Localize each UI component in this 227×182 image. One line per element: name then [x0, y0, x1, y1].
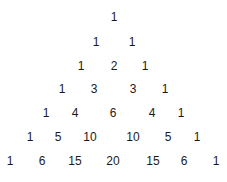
triangle-cell: 15 — [146, 155, 159, 167]
triangle-cell: 3 — [130, 83, 137, 95]
triangle-cell: 1 — [59, 83, 66, 95]
triangle-cell: 10 — [83, 131, 96, 143]
triangle-cell: 1 — [213, 155, 220, 167]
triangle-cell: 15 — [68, 155, 81, 167]
triangle-cell: 1 — [162, 83, 169, 95]
triangle-cell: 1 — [7, 155, 14, 167]
triangle-cell: 2 — [111, 60, 118, 72]
triangle-cell: 20 — [106, 155, 119, 167]
triangle-cell: 1 — [178, 107, 185, 119]
triangle-cell: 5 — [55, 131, 62, 143]
triangle-cell: 1 — [93, 36, 100, 48]
triangle-cell: 1 — [142, 60, 149, 72]
triangle-cell: 10 — [126, 131, 139, 143]
triangle-cell: 6 — [181, 155, 188, 167]
triangle-cell: 3 — [91, 83, 98, 95]
triangle-cell: 6 — [39, 155, 46, 167]
triangle-cell: 6 — [110, 107, 117, 119]
triangle-cell: 1 — [111, 11, 118, 23]
triangle-cell: 1 — [194, 131, 201, 143]
triangle-cell: 4 — [149, 107, 156, 119]
triangle-cell: 1 — [27, 131, 34, 143]
triangle-cell: 1 — [43, 107, 50, 119]
triangle-cell: 1 — [78, 60, 85, 72]
triangle-cell: 5 — [165, 131, 172, 143]
triangle-cell: 1 — [129, 36, 136, 48]
triangle-cell: 4 — [72, 107, 79, 119]
